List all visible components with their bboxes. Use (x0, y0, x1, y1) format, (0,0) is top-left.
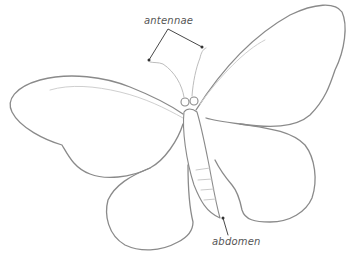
left-hindwing (107, 165, 193, 250)
abdomen-leader (223, 218, 228, 235)
right-antenna (192, 48, 206, 96)
left-antenna (150, 62, 184, 97)
left-eye (181, 98, 189, 106)
right-forewing (196, 5, 345, 126)
antennae-leader (149, 29, 202, 60)
butterfly-drawing (0, 0, 355, 264)
antennae-label: antennae (144, 15, 193, 26)
abdomen-body (183, 109, 220, 218)
right-hindwing (215, 124, 315, 222)
abdomen-label: abdomen (212, 236, 261, 247)
right-eye (190, 97, 198, 105)
left-forewing (10, 76, 183, 177)
butterfly-diagram: antennae abdomen (0, 0, 355, 264)
